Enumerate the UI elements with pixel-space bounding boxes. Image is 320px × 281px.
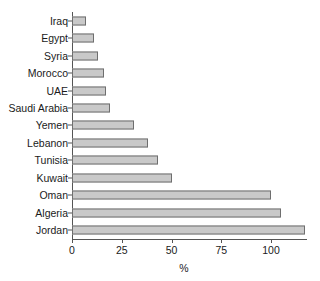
- x-tick-label: 75: [215, 244, 227, 256]
- bar: [72, 104, 110, 113]
- bar: [72, 156, 158, 165]
- bar-row: Egypt: [0, 29, 320, 46]
- bar: [72, 86, 106, 95]
- bar-row: Morocco: [0, 64, 320, 81]
- category-label: Jordan: [36, 225, 68, 236]
- bar: [72, 138, 148, 147]
- category-label: Morocco: [28, 68, 68, 79]
- bar-row: UAE: [0, 82, 320, 99]
- bar-row: Iraq: [0, 12, 320, 29]
- plot-area: IraqEgyptSyriaMoroccoUAESaudi ArabiaYeme…: [0, 0, 320, 281]
- bar-row: Kuwait: [0, 169, 320, 186]
- bar-row: Syria: [0, 47, 320, 64]
- bar: [72, 69, 104, 78]
- category-label: Oman: [39, 190, 68, 201]
- bar-row: Saudi Arabia: [0, 99, 320, 116]
- bar-chart: IraqEgyptSyriaMoroccoUAESaudi ArabiaYeme…: [0, 0, 320, 281]
- x-tick: [221, 239, 222, 243]
- bar-row: Oman: [0, 187, 320, 204]
- x-tick: [122, 239, 123, 243]
- category-label: Saudi Arabia: [8, 103, 68, 114]
- bar: [72, 51, 98, 60]
- bar: [72, 121, 134, 130]
- category-label: Kuwait: [36, 172, 68, 183]
- bar-row: Lebanon: [0, 134, 320, 151]
- x-axis-title-label: %: [179, 262, 188, 274]
- bar-row: Algeria: [0, 204, 320, 221]
- x-tick: [271, 239, 272, 243]
- category-label: UAE: [46, 85, 68, 96]
- x-tick-label: 50: [166, 244, 178, 256]
- bar-row: Yemen: [0, 117, 320, 134]
- bar: [72, 34, 94, 43]
- x-tick-label: 100: [262, 244, 280, 256]
- category-label: Yemen: [36, 120, 68, 131]
- category-label: Tunisia: [35, 155, 68, 166]
- bar: [72, 191, 271, 200]
- category-label: Iraq: [50, 15, 68, 26]
- x-axis-title: %: [0, 262, 320, 274]
- x-tick-label: 25: [116, 244, 128, 256]
- category-label: Egypt: [41, 33, 68, 44]
- x-tick: [172, 239, 173, 243]
- bar: [72, 226, 305, 235]
- category-label: Lebanon: [27, 137, 68, 148]
- bar: [72, 16, 86, 25]
- bar-row: Jordan: [0, 222, 320, 239]
- bar: [72, 208, 281, 217]
- bar-row: Tunisia: [0, 152, 320, 169]
- category-label: Syria: [44, 50, 68, 61]
- x-tick: [72, 239, 73, 243]
- category-label: Algeria: [35, 207, 68, 218]
- bar: [72, 173, 172, 182]
- x-tick-label: 0: [69, 244, 75, 256]
